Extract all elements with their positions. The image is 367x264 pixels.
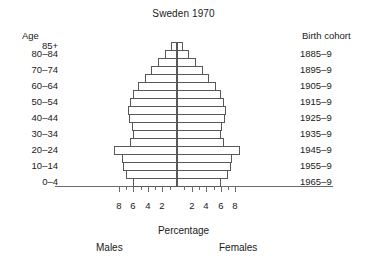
bar-male-35-39 [132, 122, 177, 131]
bar-male-75-79 [158, 58, 177, 67]
age-label-60-64: 60–64 [0, 80, 58, 91]
bar-male-20-24 [114, 146, 177, 155]
males-caption: Males [96, 242, 123, 253]
bar-male-15-19 [122, 154, 177, 163]
bar-male-60-64 [138, 82, 177, 91]
birth-cohort-label-1905-9: 1905–9 [300, 80, 360, 91]
age-label-10-14: 10–14 [0, 160, 58, 171]
x-tick-m5 [141, 186, 142, 190]
age-label-80-84: 80–84 [0, 48, 58, 59]
age-label-30-34: 30–34 [0, 128, 58, 139]
x-tick-p2 [192, 186, 193, 192]
x-tick-p1 [184, 186, 185, 190]
bar-female-80-84 [177, 50, 189, 59]
bar-female-85+ [177, 42, 183, 51]
birth-cohort-label-1965-9: 1965–9 [300, 176, 360, 187]
age-label-0-4: 0–4 [0, 176, 58, 187]
bar-male-50-54 [130, 98, 177, 107]
x-tick-p6 [221, 186, 222, 192]
x-axis-title: Percentage [0, 225, 367, 236]
x-tick-label-7: 8 [227, 200, 243, 211]
females-caption: Females [219, 242, 257, 253]
bar-female-55-59 [177, 90, 221, 99]
bar-female-40-44 [177, 114, 225, 123]
bar-male-5-9 [126, 170, 177, 179]
bar-female-30-34 [177, 130, 221, 139]
age-label-20-24: 20–24 [0, 144, 58, 155]
bar-female-35-39 [177, 122, 222, 131]
bar-female-60-64 [177, 82, 216, 91]
bar-female-5-9 [177, 170, 228, 179]
x-tick-p7 [228, 186, 229, 190]
birth-cohort-label-1955-9: 1955–9 [300, 160, 360, 171]
x-tick-m3 [155, 186, 156, 190]
x-tick-p4 [206, 186, 207, 192]
birth-cohort-label-1935-9: 1935–9 [300, 128, 360, 139]
age-label-50-54: 50–54 [0, 96, 58, 107]
x-tick-m6 [133, 186, 134, 192]
bar-female-70-74 [177, 66, 203, 75]
bar-male-40-44 [129, 114, 177, 123]
bar-male-45-49 [128, 106, 177, 115]
population-pyramid-figure: Sweden 1970 Age Birth cohort 86422468 85… [0, 0, 367, 264]
bar-female-10-14 [177, 162, 231, 171]
bar-female-75-79 [177, 58, 196, 67]
x-tick-p8 [235, 186, 236, 192]
birth-cohort-label-1885-9: 1885–9 [300, 48, 360, 59]
age-label-70-74: 70–74 [0, 64, 58, 75]
bar-female-15-19 [177, 154, 232, 163]
birth-cohort-label-1945-9: 1945–9 [300, 144, 360, 155]
x-tick-m2 [162, 186, 163, 192]
birth-cohort-label-1925-9: 1925–9 [300, 112, 360, 123]
x-tick-label-5: 4 [198, 200, 214, 211]
age-label-40-44: 40–44 [0, 112, 58, 123]
bar-male-55-59 [133, 90, 177, 99]
bar-male-70-74 [151, 66, 177, 75]
x-tick-m7 [126, 186, 127, 190]
bar-female-65-69 [177, 74, 209, 83]
x-tick-label-1: 6 [125, 200, 141, 211]
x-tick-p3 [199, 186, 200, 190]
bar-female-45-49 [177, 106, 226, 115]
bar-female-20-24 [177, 146, 240, 155]
bar-female-50-54 [177, 98, 224, 107]
x-tick-p5 [214, 186, 215, 190]
birth-cohort-label-1895-9: 1895–9 [300, 64, 360, 75]
bar-female-25-29 [177, 138, 224, 147]
x-tick-m1 [170, 186, 171, 190]
x-tick-m8 [119, 186, 120, 192]
x-tick-label-3: 2 [154, 200, 170, 211]
birth-cohort-label-1915-9: 1915–9 [300, 96, 360, 107]
bar-male-65-69 [145, 74, 177, 83]
x-tick-m4 [148, 186, 149, 192]
bar-male-10-14 [123, 162, 177, 171]
bar-male-25-29 [130, 138, 177, 147]
bar-male-30-34 [133, 130, 177, 139]
bar-male-80-84 [165, 50, 177, 59]
